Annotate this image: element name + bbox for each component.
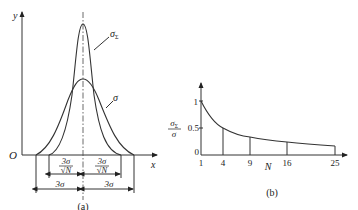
- origin-label: O: [9, 149, 17, 161]
- curve-sigma: [36, 79, 134, 155]
- x-tick-9: 9: [248, 158, 253, 168]
- y-tick-1: 1: [194, 97, 199, 107]
- dim-label-outer-left: 3σ: [55, 179, 66, 189]
- curve-ratio: [201, 101, 335, 146]
- panel-a: y x O σΣ σ 3σ √N 3σ √N: [9, 10, 157, 210]
- x-tick-25: 25: [331, 158, 341, 168]
- x-axis-label-a: x: [150, 159, 156, 170]
- figure: y x O σΣ σ 3σ √N 3σ √N: [0, 0, 358, 210]
- label-sigma: σ: [113, 92, 119, 103]
- x-tick-16: 16: [283, 158, 293, 168]
- panel-label-b: (b): [266, 187, 278, 199]
- leader-sigma-sum: [94, 37, 109, 50]
- leader-sigma: [106, 101, 113, 108]
- svg-text:σΣ: σΣ: [170, 118, 178, 129]
- figure-svg: y x O σΣ σ 3σ √N 3σ √N: [0, 0, 358, 210]
- x-tick-1: 1: [199, 158, 204, 168]
- svg-text:σ: σ: [172, 129, 177, 139]
- y-axis-label-a: y: [12, 10, 18, 21]
- dim-label-inner-right: 3σ √N: [95, 156, 109, 175]
- x-tick-4: 4: [221, 158, 226, 168]
- x-axis-label-b: N: [264, 161, 273, 172]
- y-axis-label-b: σΣ σ: [168, 118, 181, 139]
- y-tick-0: 0: [195, 147, 200, 157]
- panel-label-a: (a): [77, 201, 88, 210]
- label-sigma-sum: σΣ: [110, 28, 119, 40]
- dim-label-outer-right: 3σ: [104, 179, 115, 189]
- dim-label-inner-left: 3σ √N: [59, 156, 73, 175]
- y-tick-0.5: 0.5: [188, 123, 200, 133]
- svg-text:√N: √N: [61, 165, 73, 175]
- panel-b: 1 0.5 0 σΣ σ 1 4 9 16 25 N (b): [168, 83, 347, 199]
- svg-text:√N: √N: [97, 165, 109, 175]
- curve-sigma-sum: [49, 24, 121, 155]
